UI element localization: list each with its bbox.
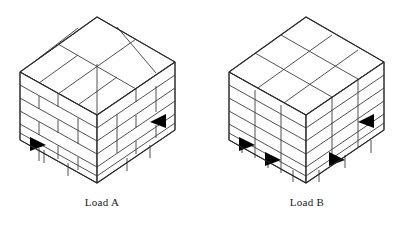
load-b-figure: Load B bbox=[205, 0, 409, 228]
load-a-illustration bbox=[0, 0, 204, 196]
load-b-illustration bbox=[205, 0, 409, 196]
load-a-caption: Load A bbox=[0, 196, 204, 208]
load-b-caption: Load B bbox=[205, 196, 409, 208]
figure-canvas: Load A bbox=[0, 0, 409, 228]
load-a-figure: Load A bbox=[0, 0, 204, 228]
